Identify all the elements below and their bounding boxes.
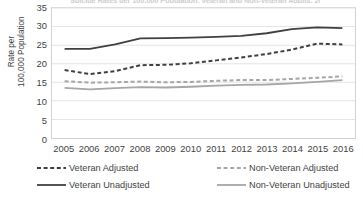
x-axis-tick-2010: 2010 [178, 143, 204, 154]
x-axis-tick-labels: 2005200620072008200920102011201220132014… [51, 143, 356, 157]
legend-item-non-veteran-adjusted[interactable]: Non-Veteran Adjusted [216, 163, 338, 173]
gridlines [52, 8, 355, 119]
legend-label: Veteran Adjusted [67, 163, 138, 173]
y-axis-tick-labels: 05101520253035 [24, 0, 47, 145]
legend-label: Non-Veteran Adjusted [247, 163, 338, 173]
x-axis-tick-2016: 2016 [330, 143, 356, 154]
x-axis-tick-2015: 2015 [305, 143, 331, 154]
legend-label: Veteran Unadjusted [67, 180, 150, 190]
legend-item-non-veteran-unadjusted[interactable]: Non-Veteran Unadjusted [216, 180, 350, 190]
x-axis-tick-2007: 2007 [102, 143, 128, 154]
x-axis-tick-2012: 2012 [229, 143, 255, 154]
x-axis-tick-2009: 2009 [152, 143, 178, 154]
y-axis-tick-35: 35 [24, 3, 47, 12]
legend-swatch-dashed-line-icon [216, 164, 247, 172]
chart-title-cropped: Suicide Rates per 100,000 Population, Ve… [70, 0, 320, 3]
chart-legend: Veteran AdjustedNon-Veteran AdjustedVete… [0, 163, 363, 199]
x-axis-tick-2013: 2013 [254, 143, 280, 154]
x-axis-tick-2014: 2014 [279, 143, 305, 154]
y-axis-tick-10: 10 [24, 97, 47, 106]
series-lines [65, 27, 343, 89]
y-axis-tick-15: 15 [24, 78, 47, 87]
legend-swatch-dashed-line-icon [36, 164, 67, 172]
legend-label: Non-Veteran Unadjusted [247, 180, 350, 190]
legend-swatch-solid-line-icon [216, 181, 247, 189]
x-axis-tick-2006: 2006 [76, 143, 102, 154]
x-axis-tick-2005: 2005 [51, 143, 77, 154]
legend-swatch-solid-line-icon [36, 181, 67, 189]
plot-area [51, 7, 356, 139]
y-axis-tick-25: 25 [24, 40, 47, 49]
legend-item-veteran-unadjusted[interactable]: Veteran Unadjusted [36, 180, 150, 190]
y-axis-tick-5: 5 [24, 116, 47, 125]
x-axis-tick-2011: 2011 [203, 143, 229, 154]
line-chart-figure: Suicide Rates per 100,000 Population, Ve… [0, 0, 363, 199]
y-axis-tick-0: 0 [24, 135, 47, 144]
y-axis-tick-30: 30 [24, 21, 47, 30]
legend-item-veteran-adjusted[interactable]: Veteran Adjusted [36, 163, 138, 173]
plot-svg [52, 8, 355, 138]
series-line-veteran-adjusted [65, 44, 343, 74]
x-axis-tick-2008: 2008 [127, 143, 153, 154]
y-axis-tick-20: 20 [24, 59, 47, 68]
series-line-non-veteran-adjusted [65, 76, 343, 82]
